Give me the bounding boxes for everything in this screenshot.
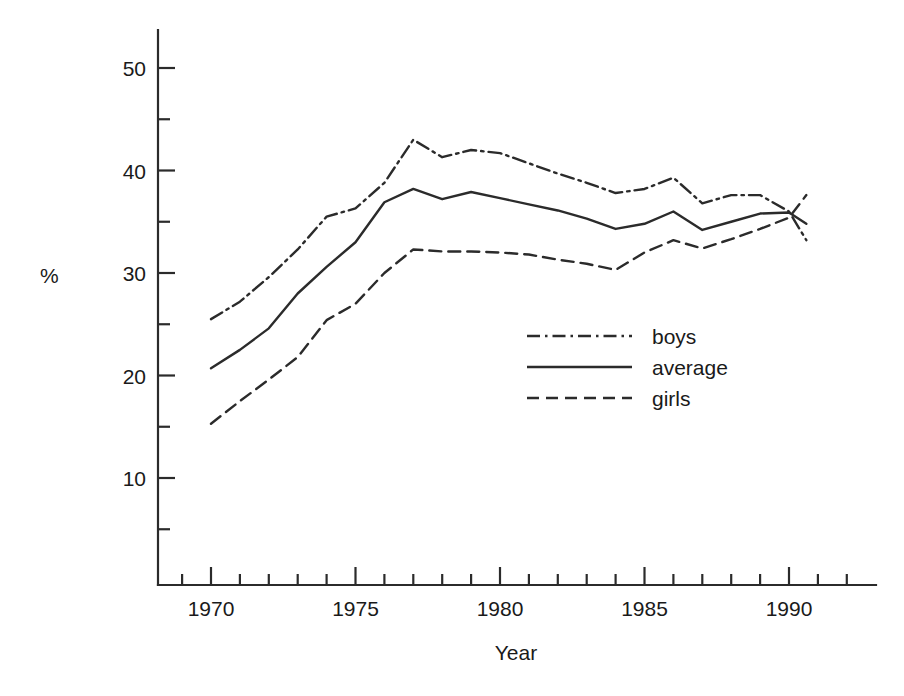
y-axis-ticks (158, 68, 175, 529)
x-axis-tick-labels: 19701975198019851990 (188, 597, 813, 620)
data-series-group (211, 140, 806, 424)
legend-label-girls: girls (652, 387, 691, 410)
line-chart: 1020304050 19701975198019851990 % Year b… (0, 0, 904, 696)
axis-spines (158, 30, 876, 585)
x-axis-title: Year (495, 641, 537, 664)
y-tick-label: 50 (123, 57, 146, 80)
legend-label-average: average (652, 356, 728, 379)
y-axis-tick-labels: 1020304050 (123, 57, 146, 490)
series-line-girls (211, 195, 806, 424)
x-tick-label: 1975 (332, 597, 379, 620)
x-axis-ticks (182, 567, 847, 585)
y-tick-label: 20 (123, 365, 146, 388)
y-axis-title: % (40, 264, 59, 287)
chart-legend: boysaveragegirls (527, 325, 728, 410)
x-tick-label: 1985 (621, 597, 668, 620)
x-tick-label: 1970 (188, 597, 235, 620)
x-tick-label: 1990 (766, 597, 813, 620)
y-tick-label: 40 (123, 160, 146, 183)
x-tick-label: 1980 (477, 597, 524, 620)
legend-label-boys: boys (652, 325, 696, 348)
series-line-average (211, 189, 806, 368)
y-tick-label: 10 (123, 467, 146, 490)
chart-figure: 1020304050 19701975198019851990 % Year b… (0, 0, 904, 696)
y-tick-label: 30 (123, 262, 146, 285)
